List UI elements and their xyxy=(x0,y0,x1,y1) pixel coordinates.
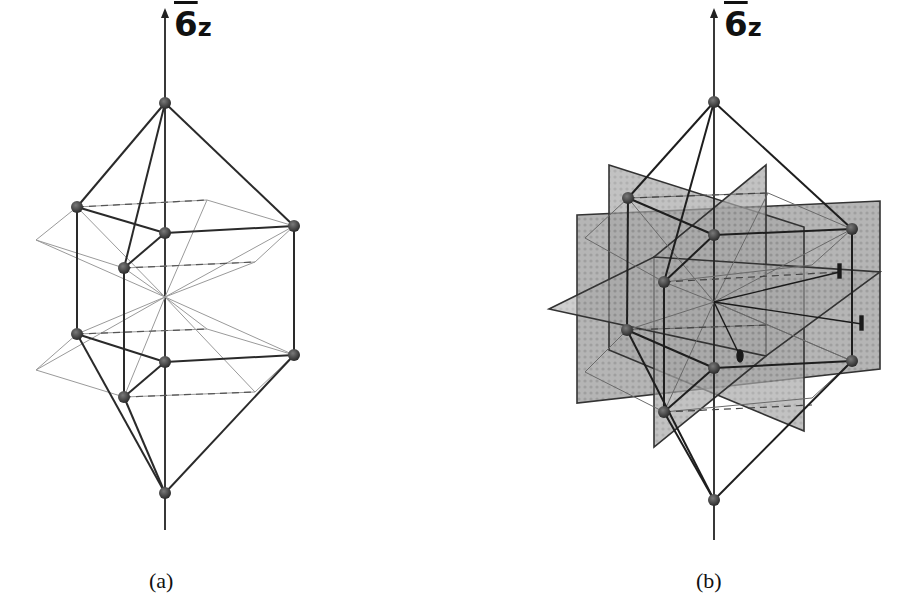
atom xyxy=(621,324,633,336)
caption-b: (b) xyxy=(696,568,722,594)
atom xyxy=(846,355,858,367)
atom xyxy=(708,229,720,241)
panel-a xyxy=(36,8,300,530)
axis-label-subscript: z xyxy=(748,14,762,42)
axis-label-a: 6z xyxy=(174,4,212,44)
atom xyxy=(658,276,670,288)
atom xyxy=(622,192,634,204)
figure-canvas xyxy=(0,0,905,616)
axis-arrow-icon xyxy=(710,8,718,18)
axis-label-subscript: z xyxy=(198,14,212,42)
atom-top-apex xyxy=(159,97,171,109)
atom xyxy=(708,362,720,374)
atom xyxy=(846,223,858,235)
caption-a: (a) xyxy=(149,568,173,594)
atom xyxy=(71,328,83,340)
atoms xyxy=(71,97,300,499)
bonds xyxy=(77,103,294,493)
axis-label-b: 6z xyxy=(724,4,762,44)
atom xyxy=(159,227,171,239)
twofold-axis-marker-icon xyxy=(737,350,743,362)
atom-bottom-apex xyxy=(159,487,171,499)
atom xyxy=(118,391,130,403)
atom xyxy=(658,406,670,418)
atom-top-apex xyxy=(708,96,720,108)
axis-label-number: 6 xyxy=(724,4,748,44)
atom xyxy=(288,349,300,361)
atom-bottom-apex xyxy=(708,494,720,506)
axis-label-number: 6 xyxy=(174,4,198,44)
atom xyxy=(118,262,130,274)
atom xyxy=(288,220,300,232)
twofold-axis-marker-icon xyxy=(860,316,863,330)
atom xyxy=(159,356,171,368)
atom xyxy=(71,201,83,213)
axis-arrow-icon xyxy=(161,8,169,18)
panel-b xyxy=(549,8,880,540)
twofold-axis-marker-icon xyxy=(838,264,841,278)
